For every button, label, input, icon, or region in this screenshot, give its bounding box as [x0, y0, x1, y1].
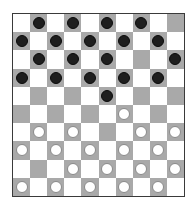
white-checker-piece[interactable]: [16, 181, 28, 193]
white-checker-piece[interactable]: [67, 163, 79, 175]
black-checker-piece[interactable]: [50, 72, 62, 84]
square-r9-c2[interactable]: [47, 178, 64, 196]
square-r3-c0[interactable]: [13, 69, 30, 87]
white-checker-piece[interactable]: [84, 181, 96, 193]
white-checker-piece[interactable]: [169, 126, 181, 138]
black-checker-piece[interactable]: [135, 17, 147, 29]
white-checker-piece[interactable]: [50, 144, 62, 156]
black-checker-piece[interactable]: [33, 53, 45, 65]
white-checker-piece[interactable]: [33, 126, 45, 138]
square-r5-c0[interactable]: [13, 105, 30, 123]
white-checker-piece[interactable]: [135, 126, 147, 138]
square-r8-c8: [150, 160, 167, 178]
square-r0-c1[interactable]: [30, 14, 47, 32]
square-r6-c5[interactable]: [99, 123, 116, 141]
square-r2-c1[interactable]: [30, 50, 47, 68]
black-checker-piece[interactable]: [16, 35, 28, 47]
square-r6-c9[interactable]: [167, 123, 184, 141]
square-r7-c8[interactable]: [150, 141, 167, 159]
black-checker-piece[interactable]: [67, 17, 79, 29]
white-checker-piece[interactable]: [135, 163, 147, 175]
square-r6-c6: [116, 123, 133, 141]
square-r6-c3[interactable]: [64, 123, 81, 141]
white-checker-piece[interactable]: [16, 144, 28, 156]
square-r9-c6[interactable]: [116, 178, 133, 196]
white-checker-piece[interactable]: [67, 126, 79, 138]
square-r7-c2[interactable]: [47, 141, 64, 159]
square-r4-c7[interactable]: [133, 87, 150, 105]
square-r3-c4[interactable]: [81, 69, 98, 87]
square-r8-c3[interactable]: [64, 160, 81, 178]
black-checker-piece[interactable]: [118, 35, 130, 47]
black-checker-piece[interactable]: [84, 35, 96, 47]
square-r2-c7[interactable]: [133, 50, 150, 68]
square-r1-c6[interactable]: [116, 32, 133, 50]
square-r5-c8[interactable]: [150, 105, 167, 123]
square-r9-c3: [64, 178, 81, 196]
checkers-board: [12, 13, 185, 197]
square-r2-c9[interactable]: [167, 50, 184, 68]
white-checker-piece[interactable]: [152, 144, 164, 156]
square-r5-c6[interactable]: [116, 105, 133, 123]
white-checker-piece[interactable]: [101, 163, 113, 175]
white-checker-piece[interactable]: [118, 181, 130, 193]
square-r0-c7[interactable]: [133, 14, 150, 32]
black-checker-piece[interactable]: [16, 72, 28, 84]
square-r5-c4[interactable]: [81, 105, 98, 123]
square-r3-c1: [30, 69, 47, 87]
square-r0-c9[interactable]: [167, 14, 184, 32]
square-r3-c8[interactable]: [150, 69, 167, 87]
square-r3-c6[interactable]: [116, 69, 133, 87]
square-r4-c1[interactable]: [30, 87, 47, 105]
square-r7-c0[interactable]: [13, 141, 30, 159]
square-r7-c3: [64, 141, 81, 159]
square-r0-c6: [116, 14, 133, 32]
square-r0-c5[interactable]: [99, 14, 116, 32]
square-r1-c0[interactable]: [13, 32, 30, 50]
square-r7-c6[interactable]: [116, 141, 133, 159]
square-r0-c3[interactable]: [64, 14, 81, 32]
black-checker-piece[interactable]: [84, 72, 96, 84]
square-r4-c3[interactable]: [64, 87, 81, 105]
square-r5-c7: [133, 105, 150, 123]
white-checker-piece[interactable]: [152, 181, 164, 193]
white-checker-piece[interactable]: [169, 163, 181, 175]
black-checker-piece[interactable]: [169, 53, 181, 65]
black-checker-piece[interactable]: [152, 35, 164, 47]
square-r8-c9[interactable]: [167, 160, 184, 178]
black-checker-piece[interactable]: [67, 53, 79, 65]
square-r6-c7[interactable]: [133, 123, 150, 141]
square-r9-c8[interactable]: [150, 178, 167, 196]
white-checker-piece[interactable]: [118, 144, 130, 156]
square-r8-c7[interactable]: [133, 160, 150, 178]
black-checker-piece[interactable]: [101, 90, 113, 102]
square-r7-c7: [133, 141, 150, 159]
black-checker-piece[interactable]: [152, 72, 164, 84]
black-checker-piece[interactable]: [50, 35, 62, 47]
white-checker-piece[interactable]: [118, 108, 130, 120]
square-r2-c5[interactable]: [99, 50, 116, 68]
black-checker-piece[interactable]: [118, 72, 130, 84]
square-r1-c2[interactable]: [47, 32, 64, 50]
square-r9-c0[interactable]: [13, 178, 30, 196]
square-r5-c2[interactable]: [47, 105, 64, 123]
square-r9-c4[interactable]: [81, 178, 98, 196]
black-checker-piece[interactable]: [101, 53, 113, 65]
square-r4-c9[interactable]: [167, 87, 184, 105]
square-r8-c1[interactable]: [30, 160, 47, 178]
square-r4-c5[interactable]: [99, 87, 116, 105]
square-r3-c2[interactable]: [47, 69, 64, 87]
square-r9-c9: [167, 178, 184, 196]
square-r6-c1[interactable]: [30, 123, 47, 141]
white-checker-piece[interactable]: [84, 144, 96, 156]
square-r1-c4[interactable]: [81, 32, 98, 50]
black-checker-piece[interactable]: [33, 17, 45, 29]
square-r5-c5: [99, 105, 116, 123]
black-checker-piece[interactable]: [101, 17, 113, 29]
square-r7-c4[interactable]: [81, 141, 98, 159]
square-r8-c5[interactable]: [99, 160, 116, 178]
square-r2-c3[interactable]: [64, 50, 81, 68]
square-r5-c3: [64, 105, 81, 123]
square-r1-c8[interactable]: [150, 32, 167, 50]
white-checker-piece[interactable]: [50, 181, 62, 193]
